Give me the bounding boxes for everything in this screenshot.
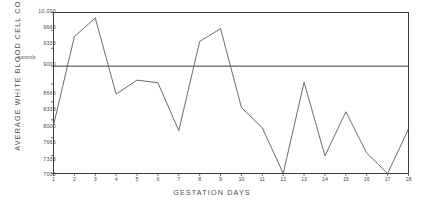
x-tick-label: 4 [110,176,122,182]
x-tick-label: 18 [403,176,415,182]
x-tick-label: 9 [215,176,227,182]
x-tick-label: 17 [382,176,394,182]
data-line-series [54,18,409,174]
x-tick-label: 1 [48,176,60,182]
x-tick-label: 11 [256,176,268,182]
plot-frame [54,13,409,174]
x-tick-label: 15 [340,176,352,182]
x-tick-label: 16 [361,176,373,182]
x-tick-label: 6 [152,176,164,182]
x-tick-label: 2 [68,176,80,182]
x-tick-label: 5 [131,176,143,182]
x-tick-label: 3 [89,176,101,182]
x-tick-label: 10 [235,176,247,182]
x-tick-label: 7 [173,176,185,182]
x-axis-title: GESTATION DAYS [0,188,424,197]
x-tick-label: 8 [194,176,206,182]
x-tick-label: 14 [319,176,331,182]
x-tick-label: 12 [277,176,289,182]
chart-figure: AVERAGE WHITE BLOOD CELL COUNT 10,000 96… [0,0,424,206]
x-tick-label: 13 [298,176,310,182]
